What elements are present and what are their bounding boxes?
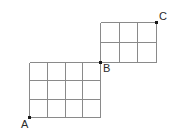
- lattice-diagram-canvas: [0, 0, 175, 134]
- lattice-diagram: A B C: [0, 0, 175, 134]
- vertex-dot-a: [28, 116, 31, 119]
- vertex-dot-b: [99, 61, 102, 64]
- lower-grid: [30, 63, 101, 118]
- vertex-dot-c: [155, 21, 158, 24]
- vertex-label-c: C: [159, 11, 167, 22]
- upper-grid: [101, 23, 157, 63]
- vertex-label-b: B: [103, 63, 110, 74]
- vertex-label-a: A: [21, 119, 28, 130]
